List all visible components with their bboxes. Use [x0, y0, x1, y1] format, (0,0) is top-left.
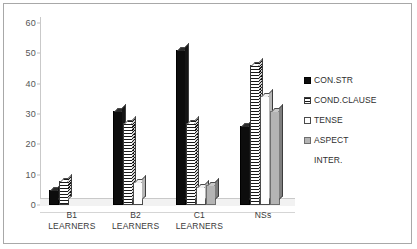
bar-slot — [143, 23, 151, 205]
y-axis-tick-label: 0 — [31, 200, 36, 210]
bar-group — [40, 23, 104, 205]
x-axis-label: C1LEARNERS — [168, 210, 232, 232]
y-axis-tick-label: 20 — [26, 139, 36, 149]
legend-swatch-icon — [304, 117, 311, 124]
x-axis: B1LEARNERSB2LEARNERSC1LEARNERSNSs — [40, 210, 295, 232]
y-axis-tick-label: 60 — [26, 18, 36, 28]
bar-group-bars — [49, 23, 95, 205]
legend-item[interactable]: INTER. — [304, 150, 410, 170]
legend-item-label: COND.CLAUSE — [314, 95, 377, 105]
bar-slot — [270, 23, 280, 205]
bar[interactable] — [206, 185, 216, 205]
bar-slot — [78, 23, 87, 205]
bar[interactable] — [270, 111, 280, 205]
bar-group — [231, 23, 295, 205]
bar-slot — [151, 23, 159, 205]
bar-slot — [59, 23, 69, 205]
bar[interactable] — [240, 126, 250, 205]
legend-item-label: INTER. — [314, 155, 342, 165]
x-axis-label: NSs — [231, 210, 295, 232]
bar-slot — [240, 23, 250, 205]
bar-slot — [196, 23, 206, 205]
legend-item[interactable]: CON.STR — [304, 70, 410, 90]
legend-swatch-icon — [304, 97, 311, 104]
bar[interactable] — [133, 182, 143, 205]
chart-legend: CON.STRCOND.CLAUSETENSEASPECTINTER. — [304, 70, 410, 170]
y-axis-tick-label: 40 — [26, 79, 36, 89]
bar-slot — [280, 23, 286, 205]
chart-frame: 0102030405060 B1LEARNERSB2LEARNERSC1LEAR… — [3, 3, 412, 244]
bar-group-bars — [176, 23, 222, 205]
bar[interactable] — [250, 65, 260, 205]
bar-groups — [40, 23, 295, 205]
y-axis-tick-label: 10 — [26, 170, 36, 180]
bar[interactable] — [49, 190, 59, 205]
bar[interactable] — [176, 50, 186, 205]
bar[interactable] — [59, 181, 69, 205]
plot-area: 0102030405060 — [40, 23, 295, 205]
bar-slot — [206, 23, 216, 205]
bar-slot — [113, 23, 123, 205]
legend-swatch-icon — [304, 157, 311, 164]
legend-swatch-icon — [304, 77, 311, 84]
bar[interactable] — [113, 111, 123, 205]
legend-item[interactable]: COND.CLAUSE — [304, 90, 410, 110]
y-axis-tick-label: 30 — [26, 109, 36, 119]
x-axis-label-line: B1 — [40, 210, 104, 221]
bar-slot — [260, 23, 270, 205]
legend-item[interactable]: TENSE — [304, 110, 410, 130]
legend-item-label: CON.STR — [314, 75, 353, 85]
legend-item-label: ASPECT — [314, 135, 349, 145]
bar-slot — [186, 23, 196, 205]
bar[interactable] — [123, 123, 133, 205]
x-axis-label-line: LEARNERS — [168, 221, 232, 232]
x-axis-label-line: NSs — [231, 210, 295, 221]
x-axis-label-line: LEARNERS — [40, 221, 104, 232]
bar[interactable] — [196, 187, 206, 205]
bar-group-bars — [240, 23, 286, 205]
y-axis-tick-label: 50 — [26, 48, 36, 58]
x-axis-label-line: B2 — [104, 210, 168, 221]
bar[interactable] — [186, 123, 196, 205]
bar-slot — [123, 23, 133, 205]
bar-group — [168, 23, 232, 205]
x-axis-label: B1LEARNERS — [40, 210, 104, 232]
bar-slot — [86, 23, 95, 205]
bar-slot — [250, 23, 260, 205]
bar-slot — [216, 23, 222, 205]
legend-item[interactable]: ASPECT — [304, 130, 410, 150]
x-axis-label: B2LEARNERS — [104, 210, 168, 232]
legend-item-label: TENSE — [314, 115, 343, 125]
bar-group-bars — [113, 23, 159, 205]
bar-slot — [69, 23, 78, 205]
legend-swatch-icon — [304, 137, 311, 144]
bar[interactable] — [260, 96, 270, 205]
bar-slot — [176, 23, 186, 205]
bar-slot — [49, 23, 59, 205]
bar-slot — [133, 23, 143, 205]
bar-group — [104, 23, 168, 205]
x-axis-label-line: LEARNERS — [104, 221, 168, 232]
x-axis-label-line: C1 — [168, 210, 232, 221]
